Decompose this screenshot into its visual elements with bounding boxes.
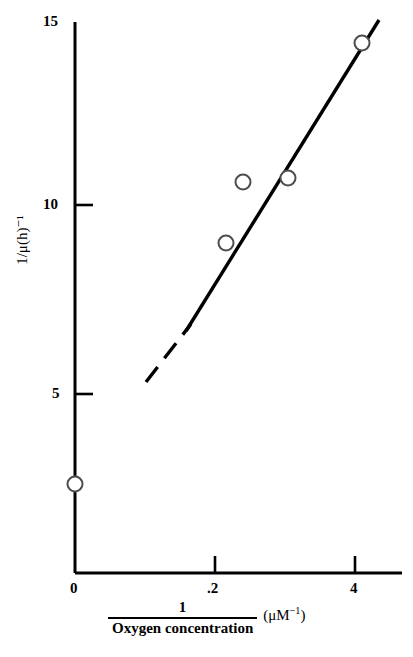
x-axis-numerator: 1 <box>173 600 193 617</box>
x-tick-label-02: .2 <box>207 581 218 596</box>
y-axis-label: 1/μ(h)⁻¹ <box>4 170 40 310</box>
x-axis-fraction: 1 Oxygen concentration <box>108 600 257 637</box>
units-molar: M <box>276 607 289 623</box>
x-tick-label-0: 0 <box>70 581 78 596</box>
data-point <box>236 175 251 190</box>
units-exponent: −1 <box>290 605 301 616</box>
x-axis-denominator: Oxygen concentration <box>108 619 257 637</box>
x-axis-units: (μM−1) <box>263 605 305 624</box>
fit-line-dashed <box>146 324 191 382</box>
plot-area <box>0 0 413 657</box>
figure-container: 15 10 5 0 .2 4 1/μ(h)⁻¹ 1 Oxygen concent… <box>0 0 413 657</box>
x-tick-label-04: 4 <box>350 581 358 596</box>
units-close-paren: ) <box>300 607 305 623</box>
x-axis-label: 1 Oxygen concentration (μM−1) <box>108 600 305 637</box>
data-point <box>219 236 234 251</box>
y-tick-label-15: 15 <box>43 14 58 29</box>
data-point <box>68 477 83 492</box>
y-tick-label-10: 10 <box>43 197 58 212</box>
data-point <box>355 36 370 51</box>
y-axis-label-text: 1/μ(h)⁻¹ <box>15 215 30 265</box>
y-tick-label-5: 5 <box>52 386 60 401</box>
data-point <box>281 171 296 186</box>
